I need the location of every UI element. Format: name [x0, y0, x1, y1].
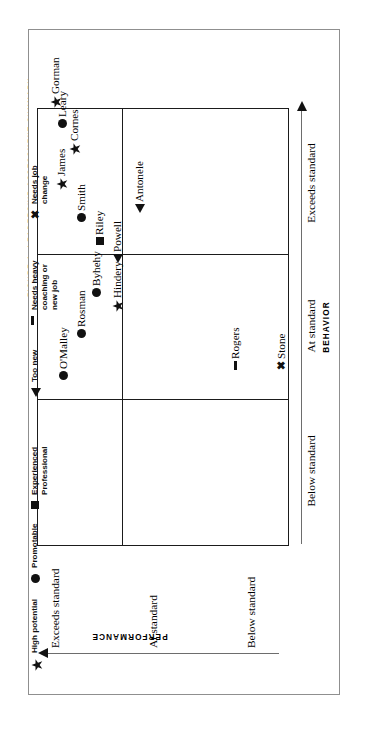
data-point-label: Byhehy — [91, 251, 102, 286]
data-point-label: Hindery — [112, 261, 123, 298]
data-point-label: Rogers — [230, 327, 241, 359]
legend-item-triangle: Too new — [30, 350, 41, 397]
data-point[interactable]: Gorman — [50, 57, 62, 108]
circle-marker-icon — [58, 119, 67, 128]
circle-marker-icon — [77, 329, 86, 338]
data-point-label: Rosman — [76, 290, 87, 327]
figure-frame: PERFORMANCE Exceeds standard At standard… — [28, 29, 340, 695]
data-point[interactable]: ✖Stone — [276, 334, 287, 370]
legend-item-star: High potential — [30, 599, 43, 671]
grid-horizontal-line-1 — [122, 109, 123, 545]
performance-axis-arrow — [47, 653, 279, 654]
data-point[interactable]: Rogers — [230, 327, 241, 370]
data-point-label: Gorman — [50, 57, 61, 94]
data-point[interactable]: Antonele — [134, 161, 145, 213]
square-marker-icon — [31, 501, 39, 509]
data-point[interactable]: Hindery — [112, 261, 124, 312]
circle-marker-icon — [77, 213, 86, 222]
data-point-label: Riley — [94, 211, 105, 235]
dash-marker-icon — [31, 316, 34, 325]
behavior-tick-at: At standard — [305, 251, 317, 401]
data-point[interactable]: James — [56, 149, 68, 190]
legend-item-x: ✖Needs job change — [30, 165, 50, 219]
legend-item-square: Experienced Professional — [30, 446, 50, 509]
circle-marker-icon — [59, 371, 68, 380]
legend-item-label: Experienced Professional — [30, 446, 50, 495]
assessment-grid: Rogers✖StoneHinderyO'MalleyRosmanByhehyP… — [37, 108, 289, 546]
data-point-label: Powell — [112, 221, 123, 252]
triangle-marker-icon — [135, 204, 145, 213]
data-point[interactable]: Rosman — [76, 290, 87, 338]
legend-item-circle: Promotable — [30, 523, 40, 583]
behavior-tick-below: Below standard — [305, 396, 317, 546]
data-point-label: Antonele — [134, 161, 145, 202]
triangle-marker-icon — [113, 254, 123, 263]
behavior-tick-exceeds: Exceeds standard — [305, 108, 317, 258]
data-point-label: O'Malley — [58, 327, 69, 369]
performance-tick-at: At standard — [147, 556, 159, 648]
circle-marker-icon — [31, 574, 40, 583]
star-marker-icon — [31, 659, 43, 671]
data-point-label: James — [56, 149, 67, 176]
behavior-axis-arrow — [301, 110, 302, 544]
legend: High potentialPromotableExperienced Prof… — [28, 47, 29, 687]
grid-vertical-line-2 — [38, 254, 288, 255]
figure-page: FIGURE 1. LEADERSHIP ASSESSMENT SUMMARY … — [0, 0, 367, 751]
data-point[interactable]: Powell — [112, 221, 123, 263]
x-marker-icon: ✖ — [31, 210, 40, 219]
star-marker-icon — [112, 300, 124, 312]
star-marker-icon — [56, 178, 68, 190]
dash-marker-icon — [234, 361, 237, 370]
legend-item-dash: Needs heavy coaching or new job — [30, 261, 61, 326]
legend-item-label: High potential — [30, 599, 40, 653]
data-point[interactable]: O'Malley — [58, 327, 69, 380]
legend-item-label: Promotable — [30, 523, 40, 568]
figure-rotated-content: PERFORMANCE Exceeds standard At standard… — [29, 32, 339, 692]
performance-tick-exceeds: Exceeds standard — [49, 556, 61, 648]
data-point-label: Cornes — [69, 109, 80, 141]
data-point-label: Smith — [76, 184, 87, 211]
triangle-marker-icon — [31, 388, 41, 397]
x-marker-icon: ✖ — [277, 361, 286, 370]
behavior-axis-title: BEHAVIOR — [322, 108, 331, 546]
performance-axis-title: PERFORMANCE — [70, 632, 190, 641]
data-point[interactable]: Byhehy — [91, 251, 102, 297]
grid-vertical-line-1 — [38, 399, 288, 400]
legend-item-label: Needs job change — [30, 165, 50, 204]
data-point[interactable]: Riley — [94, 211, 105, 245]
legend-item-label: Needs heavy coaching or new job — [30, 261, 61, 311]
star-marker-icon — [69, 143, 81, 155]
square-marker-icon — [96, 237, 104, 245]
star-marker-icon — [50, 96, 62, 108]
circle-marker-icon — [92, 288, 101, 297]
data-point[interactable]: Smith — [76, 184, 87, 222]
data-point-label: Stone — [276, 334, 287, 359]
legend-item-label: Too new — [30, 350, 40, 382]
performance-tick-below: Below standard — [245, 556, 257, 648]
data-point[interactable]: Cornes — [69, 109, 81, 155]
